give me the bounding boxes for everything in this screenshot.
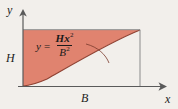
height-label: H [6, 52, 15, 64]
equation-denominator-exponent: 2 [66, 45, 70, 53]
figure-canvas: y H B x y = Hx2 B2 [0, 0, 178, 109]
equation-numerator-exponent: 2 [70, 31, 74, 39]
equation-numerator: Hx2 [54, 33, 76, 45]
x-axis-label: x [165, 93, 170, 105]
equation-annotation: y = Hx2 B2 [36, 33, 76, 58]
y-axis-label: y [7, 4, 12, 16]
equation-lhs: y [36, 40, 41, 52]
equation-equals-sign: = [44, 40, 50, 52]
equation-denominator: B2 [57, 45, 72, 58]
base-label: B [81, 92, 88, 104]
diagram-svg [0, 0, 178, 109]
equation-fraction: Hx2 B2 [54, 33, 76, 58]
equation-numerator-base: Hx [56, 32, 70, 44]
